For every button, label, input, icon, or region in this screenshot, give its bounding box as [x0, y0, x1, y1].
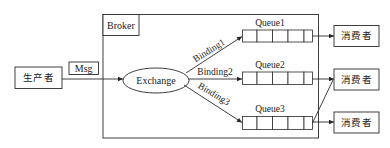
queue-cell: [243, 117, 258, 130]
message-label: Msg: [75, 63, 93, 74]
rabbitmq-architecture-diagram: Broker 生产者 Msg Exchange Binding1 Binding…: [0, 0, 390, 148]
consumer-1-label: 消费者: [341, 30, 373, 41]
consumer-3: 消费者: [334, 112, 379, 133]
queue-cell: [273, 72, 289, 85]
queue-cell: [304, 117, 313, 130]
queue-cell: [257, 117, 273, 130]
queue-cell: [273, 30, 289, 42]
consumer-3-label: 消费者: [341, 117, 373, 128]
queue-cell: [304, 72, 313, 85]
queue-cell: [243, 30, 258, 42]
consumer-1: 消费者: [334, 26, 379, 47]
message-tag: Msg: [69, 62, 99, 75]
queue-cell: [257, 72, 273, 85]
queue-cell: [257, 30, 273, 42]
queue-cell: [288, 117, 304, 130]
consumer-2-label: 消费者: [341, 74, 373, 85]
queue-cell: [288, 72, 304, 85]
queue-1-label: Queue1: [255, 18, 285, 28]
queue-cell: [273, 117, 289, 130]
broker-label: Broker: [107, 20, 135, 31]
binding-2-label: Binding2: [197, 67, 233, 77]
queue-cell: [288, 30, 304, 42]
producer-node: 生产者: [15, 67, 62, 89]
queue-cell: [243, 72, 258, 85]
exchange-node: Exchange: [123, 68, 189, 93]
producer-label: 生产者: [23, 72, 55, 83]
consumer-2: 消费者: [334, 69, 379, 90]
exchange-label: Exchange: [136, 75, 176, 86]
queue-2-label: Queue2: [255, 60, 285, 70]
queue-3-label: Queue3: [255, 104, 285, 114]
queue-cell: [304, 30, 313, 42]
